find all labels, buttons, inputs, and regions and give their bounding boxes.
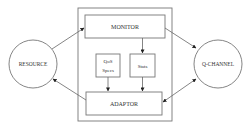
resource-label: RESOURCE [19,61,48,67]
monitor-label: MONITOR [111,24,139,30]
edge-q-channel-adaptor-bidirectional [163,79,196,102]
q-channel-label: Q-CHANNEL [202,61,235,67]
edge-monitor-to-q-channel [165,28,196,48]
monitor-node: MONITOR [85,15,165,38]
qos-specs-label-line2: Specs [102,68,114,73]
q-channel-node: Q-CHANNEL [194,40,242,88]
edge-resource-to-monitor [52,28,84,49]
architecture-diagram: MONITOR QoS Specs Stats ADAPTOR RESOURCE… [0,0,247,128]
stats-label: Stats [138,64,148,69]
adaptor-label: ADAPTOR [110,101,138,107]
qos-specs-node: QoS Specs [96,54,120,77]
adaptor-node: ADAPTOR [86,92,162,115]
qos-specs-label-line1: QoS [104,59,113,64]
edge-adaptor-to-resource [53,79,86,100]
resource-node: RESOURCE [9,40,57,88]
stats-node: Stats [130,54,155,77]
